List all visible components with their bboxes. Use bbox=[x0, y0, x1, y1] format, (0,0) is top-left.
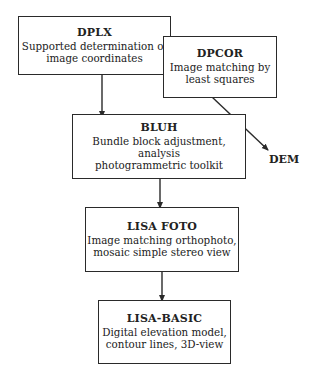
node-lisa-basic: LISA-BASIC Digital elevation model, cont… bbox=[98, 300, 231, 364]
node-desc-line: contour lines, 3D-view bbox=[106, 338, 223, 350]
node-title: DPLX bbox=[77, 27, 112, 40]
node-desc-line: Bundle block adjustment, analysis bbox=[73, 135, 245, 159]
node-title: LISA FOTO bbox=[127, 221, 197, 234]
node-bluh: BLUH Bundle block adjustment, analysis p… bbox=[72, 114, 246, 179]
node-desc-line: Supported determination of bbox=[22, 40, 167, 52]
node-desc-line: least squares bbox=[185, 73, 254, 85]
node-desc-line: mosaic simple stereo view bbox=[93, 246, 230, 258]
output-dem-label: DEM bbox=[269, 153, 299, 166]
node-title: DPCOR bbox=[197, 48, 243, 61]
node-dplx: DPLX Supported determination of image co… bbox=[18, 16, 171, 75]
node-desc-line: photogrammetric toolkit bbox=[95, 159, 223, 171]
node-desc-line: Image matching orthophoto, bbox=[87, 234, 236, 246]
node-title: LISA-BASIC bbox=[127, 313, 203, 326]
node-desc-line: image coordinates bbox=[46, 52, 142, 64]
node-lisa-foto: LISA FOTO Image matching orthophoto, mos… bbox=[85, 207, 239, 272]
node-dpcor: DPCOR Image matching by least squares bbox=[163, 36, 277, 98]
node-desc-line: Digital elevation model, bbox=[102, 326, 226, 338]
node-desc-line: Image matching by bbox=[170, 61, 271, 73]
node-title: BLUH bbox=[140, 122, 177, 135]
